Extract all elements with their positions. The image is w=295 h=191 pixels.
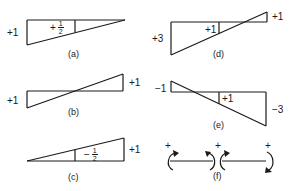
panel-a-inner-sign: + [50,23,56,33]
panel-f-sign-middle: + [215,141,221,151]
panel-b-caption: (b) [68,108,79,117]
panel-e-inner-value: +1 [222,94,233,104]
panel-b-left-value: +1 [7,96,18,106]
panel-c-shape [27,138,124,161]
panel-e-caption: (e) [213,121,224,130]
panel-a-inner-denominator: 2 [59,28,63,35]
panel-d-caption: (d) [213,50,224,59]
panel-d-right-value: +1 [272,12,283,22]
panel-c-right-value: +1 [129,145,140,155]
panel-c-inner-sign: − [84,150,90,160]
panel-a-shape [27,20,125,45]
moment-arrow-left-icon [168,150,179,170]
moment-arrow-right-icon [265,152,273,173]
panel-c-inner-denominator: 2 [93,155,97,162]
panel-b-right-value: +1 [129,78,140,88]
panel-a-inner-numerator: 1 [58,20,64,28]
diagram-canvas [0,0,295,191]
panel-f-sign-right: + [265,141,271,151]
panel-f-shape [168,150,273,173]
moment-arrow-mid-right-icon [220,150,230,170]
panel-a-left-value: +1 [7,28,18,38]
panel-a-inner-fraction: + 1 2 [50,20,64,35]
panel-c-caption: (c) [68,173,79,182]
panel-a-caption: (a) [68,50,79,59]
panel-d-inner-value: +1 [205,25,216,35]
panel-e-left-value: −1 [155,84,166,94]
panel-f-caption: (f) [213,172,222,181]
panel-c-inner-numerator: 1 [92,147,98,155]
panel-c-inner-fraction: − 1 2 [84,147,98,162]
panel-f-sign-left: + [165,141,171,151]
panel-e-right-value: −3 [272,105,283,115]
panel-b-shape [27,74,123,108]
panel-d-left-value: +3 [152,34,163,44]
